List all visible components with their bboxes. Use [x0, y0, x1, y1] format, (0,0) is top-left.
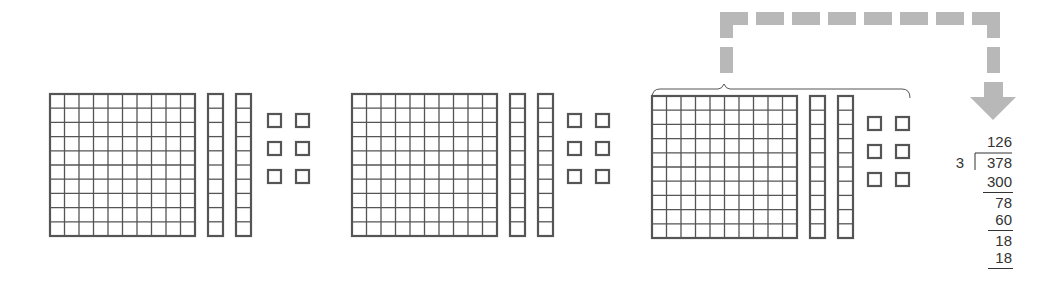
one-unit	[868, 145, 881, 158]
one-unit	[268, 142, 281, 155]
one-unit	[896, 145, 909, 158]
one-unit	[596, 142, 609, 155]
arrow-dash	[720, 47, 733, 73]
quotient: 126	[980, 134, 1012, 150]
one-unit	[268, 170, 281, 183]
step-subtract-60: 60	[980, 212, 1012, 228]
arrow-dash-corner	[720, 12, 748, 38]
one-unit	[296, 114, 309, 127]
one-unit	[896, 117, 909, 130]
one-unit	[296, 142, 309, 155]
one-unit	[868, 173, 881, 186]
arrow-dash	[864, 12, 892, 25]
divisor: 3	[952, 155, 964, 171]
one-unit	[896, 173, 909, 186]
rule-3	[988, 268, 1013, 269]
step-remainder-78: 78	[980, 195, 1012, 211]
rule-2	[988, 230, 1013, 231]
one-unit	[568, 170, 581, 183]
one-unit	[568, 142, 581, 155]
arrow-dash	[900, 12, 928, 25]
one-unit	[568, 114, 581, 127]
step-subtract-300: 300	[980, 174, 1012, 190]
arrow-down-icon	[970, 82, 1016, 120]
arrow-dash	[756, 12, 784, 25]
one-unit	[596, 114, 609, 127]
one-unit	[868, 117, 881, 130]
arrow-dash	[828, 12, 856, 25]
one-unit	[596, 170, 609, 183]
step-subtract-18: 18	[980, 250, 1012, 266]
one-unit	[268, 114, 281, 127]
arrow-dash	[987, 47, 1000, 73]
step-remainder-18: 18	[980, 233, 1012, 249]
arrow-dash	[792, 12, 820, 25]
diagram-canvas	[0, 0, 1057, 298]
one-unit	[296, 170, 309, 183]
dividend: 378	[980, 155, 1012, 171]
base-ten-division-diagram: 126 3 378 300 78 60 18 18	[0, 0, 1057, 298]
rule-1	[983, 192, 1013, 193]
arrow-dash	[936, 12, 964, 25]
arrow-dash-corner	[972, 12, 1000, 38]
